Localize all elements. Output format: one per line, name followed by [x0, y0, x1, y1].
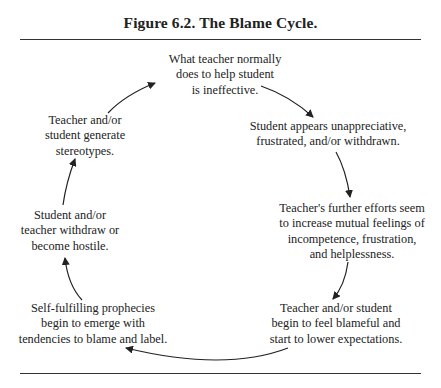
arrow-n4-n5 [126, 348, 288, 360]
arrow-n5-n6 [65, 258, 82, 300]
arrow-n7-n1 [108, 83, 155, 113]
arrow-n6-n7 [63, 159, 75, 205]
cycle-arrows [0, 0, 441, 388]
arrow-n1-n2 [261, 86, 313, 117]
bottom-rule [20, 373, 421, 374]
arrow-n3-n4 [333, 262, 348, 299]
arrow-n2-n3 [336, 152, 350, 197]
